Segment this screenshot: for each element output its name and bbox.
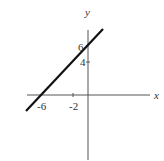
tick-label-y-6: 6 — [78, 41, 84, 53]
data-line — [26, 29, 103, 111]
tick-label-y-4: 4 — [80, 56, 86, 68]
tick-label-x-neg6: -6 — [37, 100, 47, 112]
y-axis-label: y — [84, 6, 90, 18]
tick-label-x-neg2: -2 — [69, 100, 78, 112]
line-graph: x y -6 -2 4 6 — [0, 0, 164, 161]
x-axis-label: x — [153, 89, 159, 101]
